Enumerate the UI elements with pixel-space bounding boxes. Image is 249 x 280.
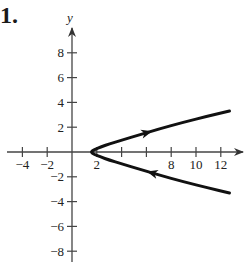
x-tick-label: 12 <box>214 157 227 172</box>
x-tick-label: 2 <box>94 157 101 172</box>
y-tick-label: 8 <box>58 45 65 60</box>
x-tick-label: 10 <box>190 157 203 172</box>
y-tick-label: 6 <box>58 70 65 85</box>
tick-marks: −4−22810128642−2−4−6−8 <box>15 45 227 258</box>
x-tick-label: −4 <box>15 157 29 172</box>
y-tick-label: 2 <box>58 120 65 135</box>
x-tick-label: 8 <box>168 157 175 172</box>
axes <box>7 28 243 262</box>
y-tick-label: −2 <box>50 169 64 184</box>
chart: −4−22810128642−2−4−6−8 y <box>0 0 249 280</box>
y-tick-label: −8 <box>50 244 64 259</box>
y-tick-label: 4 <box>58 95 65 110</box>
y-tick-label: −6 <box>50 219 64 234</box>
y-axis-label: y <box>65 10 73 25</box>
y-tick-label: −4 <box>50 194 64 209</box>
